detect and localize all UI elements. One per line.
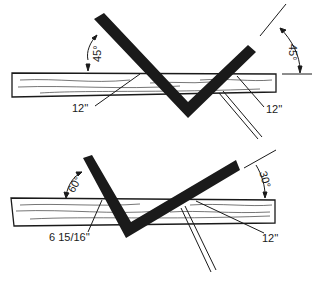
pencil-top-icon: [219, 91, 262, 139]
bottom-panel: [11, 150, 276, 272]
measure-label-top-right: 12'': [266, 104, 282, 115]
angle-label-top-right: 45°: [287, 44, 298, 61]
measure-label-bottom-left: 6 15/16'': [49, 232, 90, 243]
angle-label-top-left: 45°: [92, 45, 103, 62]
framing-square-top: [94, 13, 256, 118]
measure-label-top-left: 12'': [72, 103, 88, 114]
measure-label-bottom-right: 12'': [262, 233, 278, 244]
top-panel: [12, 4, 312, 139]
diagram-canvas: 45° 45° 12'' 12'' 60° 30° 6 15/16'' 12'': [0, 0, 318, 282]
board-top: [12, 73, 276, 97]
